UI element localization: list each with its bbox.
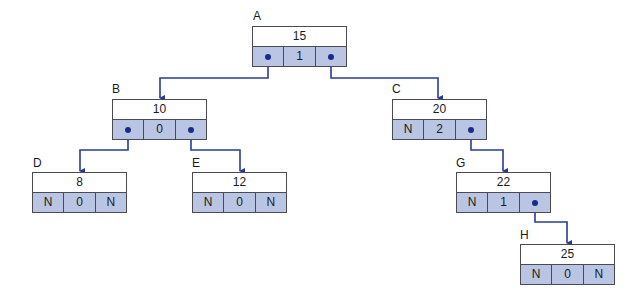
node-e-label: E: [192, 156, 200, 170]
node-c-balance: 2: [424, 120, 455, 139]
node-g-balance: 1: [488, 193, 519, 212]
node-b: 10 0: [112, 99, 207, 140]
node-h-balance: 0: [552, 265, 583, 284]
pointer-dot-icon: [328, 54, 334, 60]
node-d-balance: 0: [64, 193, 95, 212]
node-b-label: B: [112, 82, 120, 96]
node-a-label: A: [253, 9, 261, 23]
node-h-right-null: N: [584, 265, 614, 284]
node-h-label: H: [520, 228, 529, 242]
node-h-left-null: N: [521, 265, 552, 284]
node-e-balance: 0: [224, 193, 255, 212]
node-d-left-null: N: [33, 193, 64, 212]
node-d: 8 N 0 N: [32, 172, 127, 213]
node-h: 25 N 0 N: [520, 244, 615, 285]
node-a-right-pointer: [316, 47, 346, 66]
node-c-key: 20: [393, 100, 486, 120]
edge-a-c: [331, 57, 438, 98]
node-g: 22 N 1: [456, 172, 551, 213]
node-g-right-pointer: [520, 193, 550, 212]
node-e-right-null: N: [256, 193, 286, 212]
node-e: 12 N 0 N: [192, 172, 287, 213]
node-e-left-null: N: [193, 193, 224, 212]
node-g-label: G: [456, 156, 465, 170]
pointer-dot-icon: [265, 54, 271, 60]
node-d-key: 8: [33, 173, 126, 193]
node-d-label: D: [33, 156, 42, 170]
node-h-key: 25: [521, 245, 614, 265]
pointer-dot-icon: [532, 200, 538, 206]
node-c: 20 N 2: [392, 99, 487, 140]
pointer-dot-icon: [125, 127, 131, 133]
node-b-key: 10: [113, 100, 206, 120]
node-a: 15 1: [252, 26, 347, 67]
node-g-left-null: N: [457, 193, 488, 212]
node-c-label: C: [392, 82, 401, 96]
node-g-key: 22: [457, 173, 550, 193]
node-e-key: 12: [193, 173, 286, 193]
pointer-dot-icon: [468, 127, 474, 133]
node-a-left-pointer: [253, 47, 284, 66]
pointer-dot-icon: [188, 127, 194, 133]
node-d-right-null: N: [96, 193, 126, 212]
node-a-balance: 1: [284, 47, 315, 66]
node-c-left-null: N: [393, 120, 424, 139]
node-c-right-pointer: [456, 120, 486, 139]
node-b-right-pointer: [176, 120, 206, 139]
node-b-left-pointer: [113, 120, 144, 139]
node-b-balance: 0: [144, 120, 175, 139]
node-a-key: 15: [253, 27, 346, 47]
